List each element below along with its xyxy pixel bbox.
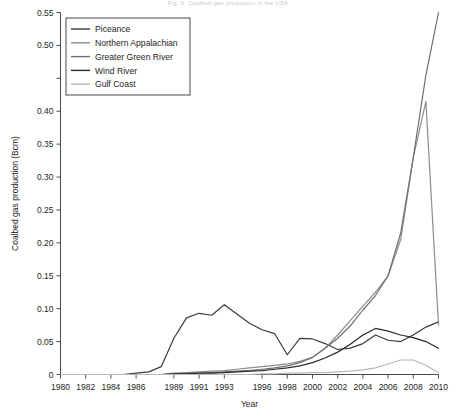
x-tick-label: 1982 <box>76 382 95 392</box>
y-tick-label: 0.40 <box>37 106 54 116</box>
y-axis-ticks: 00.050.100.150.200.250.300.350.400.500.5… <box>37 8 61 380</box>
x-tick-label: 1984 <box>101 382 120 392</box>
y-tick-label: 0 <box>49 370 54 380</box>
x-tick-label: 1998 <box>278 382 297 392</box>
cut-off-figure-title: Fig. 9. Coalbed gas production in the US… <box>0 0 456 6</box>
y-tick-label: 0.50 <box>37 40 54 50</box>
legend-label: Gulf Coast <box>95 79 136 89</box>
x-tick-label: 2010 <box>429 382 448 392</box>
x-tick-label: 1989 <box>164 382 183 392</box>
x-tick-label: 2004 <box>353 382 372 392</box>
line-chart-canvas: 00.050.100.150.200.250.300.350.400.500.5… <box>0 0 456 420</box>
chart-figure: Fig. 9. Coalbed gas production in the US… <box>0 0 456 420</box>
y-tick-label: 0.15 <box>37 271 54 281</box>
x-axis-ticks: 1980198219841986198919911993199619982000… <box>51 375 448 392</box>
x-tick-label: 1991 <box>190 382 209 392</box>
x-tick-label: 1996 <box>253 382 272 392</box>
x-tick-label: 1980 <box>51 382 70 392</box>
y-tick-label: 0.35 <box>37 139 54 149</box>
legend-label: Piceance <box>95 24 131 34</box>
x-axis-title: Year <box>241 399 258 409</box>
y-tick-label: 0.10 <box>37 304 54 314</box>
x-tick-label: 2002 <box>328 382 347 392</box>
legend-label: Greater Green River <box>95 52 173 62</box>
y-tick-label: 0.30 <box>37 172 54 182</box>
y-axis-title: Coalbed gas production (Bcm) <box>10 136 20 251</box>
y-tick-label: 0.25 <box>37 205 54 215</box>
legend-label: Northern Appalachian <box>95 38 178 48</box>
x-tick-label: 1993 <box>215 382 234 392</box>
x-tick-label: 2006 <box>379 382 398 392</box>
series-line-gulf-coast <box>61 360 439 374</box>
x-tick-label: 1986 <box>127 382 146 392</box>
x-tick-label: 2000 <box>303 382 322 392</box>
series-line-northern-appalachian <box>61 101 439 374</box>
y-tick-label: 0.55 <box>37 8 54 18</box>
y-tick-label: 0.20 <box>37 238 54 248</box>
y-tick-label: 0.05 <box>37 337 54 347</box>
x-tick-label: 2008 <box>404 382 423 392</box>
legend-label: Wind River <box>95 66 137 76</box>
chart-legend: PiceanceNorthern AppalachianGreater Gree… <box>66 18 190 95</box>
series-line-piceance <box>61 305 439 375</box>
